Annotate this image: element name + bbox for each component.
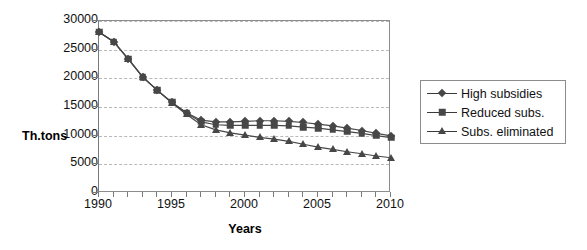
data-point-subs-eliminated-2005 xyxy=(314,143,322,150)
data-point-subs-eliminated-2004 xyxy=(299,140,307,147)
legend-item-reduced-subs: Reduced subs. xyxy=(427,104,544,122)
y-axis-title: Th.tons xyxy=(22,129,67,143)
y-axis: 050001000015000200002500030000 xyxy=(0,0,98,250)
y-tick-label-0: 0 xyxy=(6,185,98,197)
chart-legend: High subsidies Reduced subs. Subs. elimi… xyxy=(420,80,566,144)
y-tick-label-30000: 30000 xyxy=(6,13,98,25)
data-point-reduced-subs-2004 xyxy=(300,124,307,131)
data-point-subs-eliminated-1995 xyxy=(168,99,176,106)
data-point-reduced-subs-2008 xyxy=(359,130,366,137)
legend-label: Subs. eliminated xyxy=(461,125,553,139)
x-tick-1997 xyxy=(200,192,201,197)
x-tick-label-2010: 2010 xyxy=(360,197,420,211)
x-tick-2002 xyxy=(273,192,274,197)
data-point-reduced-subs-2002 xyxy=(271,122,278,129)
chart-figure: 050001000015000200002500030000 Th.tons 1… xyxy=(0,0,587,250)
legend-marker-triangle-icon xyxy=(427,125,457,139)
data-point-subs-eliminated-2008 xyxy=(358,150,366,157)
data-point-subs-eliminated-2002 xyxy=(270,135,278,142)
data-point-reduced-subs-2000 xyxy=(242,122,249,129)
data-point-subs-eliminated-1991 xyxy=(110,38,118,45)
legend-label: High subsidies xyxy=(461,87,542,101)
data-point-subs-eliminated-2007 xyxy=(343,148,351,155)
x-tick-1991 xyxy=(113,192,114,197)
data-point-reduced-subs-2007 xyxy=(344,128,351,135)
x-tick-2001 xyxy=(259,192,260,197)
data-point-subs-eliminated-1998 xyxy=(212,126,220,133)
legend-item-high-subsidies: High subsidies xyxy=(427,85,542,103)
data-point-reduced-subs-2010 xyxy=(388,134,395,141)
x-tick-label-2000: 2000 xyxy=(214,197,274,211)
y-tick-label-15000: 15000 xyxy=(6,99,98,111)
x-tick-label-1990: 1990 xyxy=(68,197,128,211)
data-point-subs-eliminated-2001 xyxy=(256,133,264,140)
data-point-reduced-subs-1999 xyxy=(227,122,234,129)
data-point-subs-eliminated-2006 xyxy=(329,145,337,152)
y-tick-label-5000: 5000 xyxy=(6,156,98,168)
data-point-reduced-subs-2003 xyxy=(286,123,293,130)
legend-label: Reduced subs. xyxy=(461,106,544,120)
plot-area xyxy=(98,20,390,192)
y-tick-label-25000: 25000 xyxy=(6,42,98,54)
data-point-reduced-subs-2001 xyxy=(256,122,263,129)
x-tick-1992 xyxy=(127,192,128,197)
legend-marker-square-icon xyxy=(427,106,457,120)
x-tick-2007 xyxy=(346,192,347,197)
data-point-subs-eliminated-1992 xyxy=(124,55,132,62)
data-point-subs-eliminated-1996 xyxy=(183,110,191,117)
data-point-subs-eliminated-1997 xyxy=(197,121,205,128)
data-point-subs-eliminated-2000 xyxy=(241,131,249,138)
legend-item-subs-eliminated: Subs. eliminated xyxy=(427,123,553,141)
series-markers xyxy=(99,21,389,191)
data-point-subs-eliminated-2009 xyxy=(372,152,380,159)
x-tick-1996 xyxy=(186,192,187,197)
x-tick-label-1995: 1995 xyxy=(141,197,201,211)
data-point-subs-eliminated-1993 xyxy=(139,73,147,80)
data-point-subs-eliminated-1990 xyxy=(95,28,103,35)
data-point-reduced-subs-2006 xyxy=(329,127,336,134)
data-point-subs-eliminated-2010 xyxy=(387,154,395,161)
x-tick-2006 xyxy=(332,192,333,197)
x-axis-title: Years xyxy=(0,222,490,236)
legend-marker-diamond-icon xyxy=(427,87,457,101)
x-tick-label-2005: 2005 xyxy=(287,197,347,211)
data-point-subs-eliminated-1999 xyxy=(226,129,234,136)
data-point-subs-eliminated-2003 xyxy=(285,137,293,144)
data-point-reduced-subs-2005 xyxy=(315,125,322,132)
y-tick-label-20000: 20000 xyxy=(6,70,98,82)
data-point-reduced-subs-2009 xyxy=(373,132,380,139)
data-point-subs-eliminated-1994 xyxy=(153,86,161,93)
